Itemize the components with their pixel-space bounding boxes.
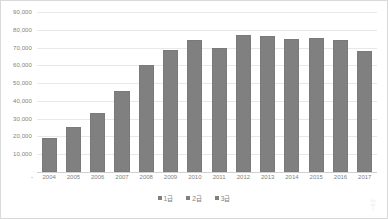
bar-slot bbox=[304, 12, 328, 172]
bar[interactable] bbox=[139, 65, 154, 172]
x-axis-tick-label: 2012 bbox=[231, 174, 255, 186]
bar-slot bbox=[256, 12, 280, 172]
y-axis: 90,00080,00070,00060,00050,00040,00030,0… bbox=[1, 12, 35, 172]
x-axis-tick-label: 2010 bbox=[183, 174, 207, 186]
bar-slot bbox=[280, 12, 304, 172]
x-axis-tick-label: 2004 bbox=[37, 174, 61, 186]
y-axis-tick-label: 70,000 bbox=[13, 45, 32, 51]
bar-slot bbox=[61, 12, 85, 172]
bar[interactable] bbox=[357, 51, 372, 172]
gridline bbox=[37, 172, 377, 173]
x-axis-tick-label: 2013 bbox=[256, 174, 280, 186]
x-axis-tick-label: 2009 bbox=[158, 174, 182, 186]
bar[interactable] bbox=[114, 91, 129, 172]
bar-slot bbox=[353, 12, 377, 172]
bar-slot bbox=[328, 12, 352, 172]
y-axis-tick-label: 90,000 bbox=[13, 9, 32, 15]
x-axis: 2004200520062007200820092010201120122013… bbox=[37, 174, 377, 186]
bar[interactable] bbox=[66, 127, 81, 172]
legend-label: 2급 bbox=[192, 193, 202, 203]
bar[interactable] bbox=[187, 40, 202, 172]
bar-slot bbox=[158, 12, 182, 172]
legend-label: 3급 bbox=[221, 193, 231, 203]
y-axis-origin-label: - bbox=[31, 174, 33, 180]
x-axis-tick-label: 2006 bbox=[86, 174, 110, 186]
bar[interactable] bbox=[163, 50, 178, 172]
bar[interactable] bbox=[309, 38, 324, 172]
x-axis-tick-label: 2008 bbox=[134, 174, 158, 186]
y-axis-tick-label: 30,000 bbox=[13, 116, 32, 122]
legend-swatch-icon bbox=[215, 196, 219, 200]
bar[interactable] bbox=[333, 40, 348, 172]
legend-label: 1급 bbox=[164, 193, 174, 203]
chart-legend: 1급2급3급 bbox=[1, 193, 387, 203]
x-axis-tick-label: 2015 bbox=[304, 174, 328, 186]
bar-slot bbox=[134, 12, 158, 172]
bar-slot bbox=[86, 12, 110, 172]
bar-slot bbox=[110, 12, 134, 172]
x-axis-tick-label: 2017 bbox=[353, 174, 377, 186]
y-axis-tick-label: 60,000 bbox=[13, 62, 32, 68]
y-axis-tick-label: 80,000 bbox=[13, 27, 32, 33]
y-axis-tick-label: 40,000 bbox=[13, 98, 32, 104]
bar-slot bbox=[207, 12, 231, 172]
bar[interactable] bbox=[42, 138, 57, 172]
x-axis-tick-label: 2016 bbox=[328, 174, 352, 186]
legend-swatch-icon bbox=[158, 196, 162, 200]
bar[interactable] bbox=[236, 35, 251, 172]
legend-item[interactable]: 2급 bbox=[186, 193, 202, 203]
bars-layer bbox=[37, 12, 377, 172]
bar[interactable] bbox=[260, 36, 275, 172]
y-axis-tick-label: 50,000 bbox=[13, 80, 32, 86]
bar-slot bbox=[183, 12, 207, 172]
bar-slot bbox=[231, 12, 255, 172]
x-axis-tick-label: 2007 bbox=[110, 174, 134, 186]
watermark-icon bbox=[368, 199, 378, 212]
bar[interactable] bbox=[284, 39, 299, 172]
legend-item[interactable]: 3급 bbox=[215, 193, 231, 203]
legend-item[interactable]: 1급 bbox=[158, 193, 174, 203]
y-axis-tick-label: 10,000 bbox=[13, 151, 32, 157]
legend-swatch-icon bbox=[186, 196, 190, 200]
x-axis-tick-label: 2011 bbox=[207, 174, 231, 186]
chart-container: 90,00080,00070,00060,00050,00040,00030,0… bbox=[0, 0, 388, 219]
bar[interactable] bbox=[212, 48, 227, 172]
bar[interactable] bbox=[90, 113, 105, 172]
y-axis-tick-label: 20,000 bbox=[13, 133, 32, 139]
bar-slot bbox=[37, 12, 61, 172]
x-axis-tick-label: 2014 bbox=[280, 174, 304, 186]
x-axis-tick-label: 2005 bbox=[61, 174, 85, 186]
plot-area bbox=[37, 12, 377, 172]
